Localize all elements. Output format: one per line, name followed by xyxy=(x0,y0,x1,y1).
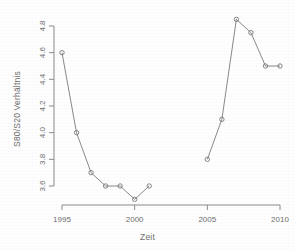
data-line-series xyxy=(62,19,280,199)
y-tick-label: 4.4 xyxy=(38,73,47,85)
y-tick-label: 4.2 xyxy=(38,100,47,112)
x-tick-label: 2010 xyxy=(271,215,289,224)
x-axis-ticks: 1995200020052010 xyxy=(53,205,289,224)
x-axis-title: Zeit xyxy=(0,232,295,242)
y-axis-ticks: 3.63.84.04.24.44.64.8 xyxy=(38,20,54,192)
y-axis: 3.63.84.04.24.44.64.8 xyxy=(38,20,54,192)
y-tick-label: 4.0 xyxy=(38,127,47,139)
x-axis: 1995200020052010 xyxy=(53,205,289,224)
y-axis-title: S80/S20 Verhältnis xyxy=(12,49,22,169)
y-tick-label: 3.8 xyxy=(38,153,47,165)
x-tick-label: 1995 xyxy=(53,215,71,224)
line-chart-canvas: 3.63.84.04.24.44.64.8 1995200020052010 xyxy=(0,0,295,250)
y-tick-label: 4.8 xyxy=(38,20,47,32)
chart-figure: 3.63.84.04.24.44.64.8 1995200020052010 S… xyxy=(0,0,295,250)
y-tick-label: 3.6 xyxy=(38,180,47,192)
y-tick-label: 4.6 xyxy=(38,47,47,59)
data-line-segment xyxy=(207,19,280,159)
data-line-segment xyxy=(62,53,149,200)
x-tick-label: 2005 xyxy=(198,215,216,224)
data-point-markers xyxy=(60,17,282,201)
x-tick-label: 2000 xyxy=(126,215,144,224)
